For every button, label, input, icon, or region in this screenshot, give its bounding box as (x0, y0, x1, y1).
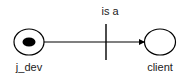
transition-label: is a (101, 6, 118, 17)
token-icon (23, 38, 36, 47)
place-client[interactable] (145, 29, 176, 55)
place-label-j-dev: j_dev (16, 62, 42, 73)
petri-net-diagram: is a j_dev client (0, 0, 189, 75)
place-j-dev[interactable] (14, 29, 44, 55)
place-label-client: client (147, 62, 173, 73)
